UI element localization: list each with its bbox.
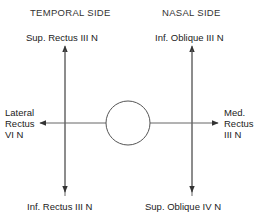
nasal-side-header: NASAL SIDE bbox=[162, 7, 221, 18]
eye-circle bbox=[106, 101, 150, 145]
medial-rectus-label: Med. Rectus III N bbox=[224, 107, 254, 140]
inf-rectus-label: Inf. Rectus III N bbox=[27, 201, 92, 212]
temporal-side-header: TEMPORAL SIDE bbox=[30, 7, 111, 18]
sup-rectus-label: Sup. Rectus III N bbox=[26, 32, 98, 43]
medial-rectus-line3: III N bbox=[224, 129, 254, 140]
lateral-rectus-line1: Lateral bbox=[5, 107, 35, 118]
medial-rectus-line1: Med. bbox=[224, 107, 254, 118]
lateral-rectus-line2: Rectus bbox=[5, 118, 35, 129]
inf-oblique-label: Inf. Oblique III N bbox=[155, 32, 224, 43]
lateral-rectus-line3: VI N bbox=[5, 129, 35, 140]
lateral-rectus-label: Lateral Rectus VI N bbox=[5, 107, 35, 140]
medial-rectus-line2: Rectus bbox=[224, 118, 254, 129]
sup-oblique-label: Sup. Oblique IV N bbox=[145, 201, 221, 212]
